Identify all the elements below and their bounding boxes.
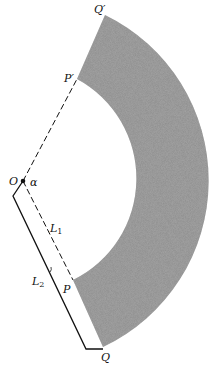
label-alpha: α: [30, 176, 38, 189]
label-o: O: [9, 175, 18, 188]
label-p-prime: P′: [63, 72, 74, 85]
l2-brace-mark: [50, 267, 51, 272]
label-l2: L2: [31, 275, 44, 289]
dashed-radius-upper: [23, 79, 77, 181]
shaded-annular-region: [73, 15, 209, 347]
label-q: Q: [101, 351, 110, 364]
label-p: P: [62, 283, 71, 296]
center-point-o: [21, 179, 26, 184]
l2-bracket-line: [13, 181, 103, 349]
annular-sector-diagram: O α Q′ P′ P Q L1 L2: [0, 0, 213, 371]
label-q-prime: Q′: [94, 3, 106, 16]
label-l1: L1: [49, 222, 62, 236]
dashed-radius-lower: [23, 181, 73, 280]
